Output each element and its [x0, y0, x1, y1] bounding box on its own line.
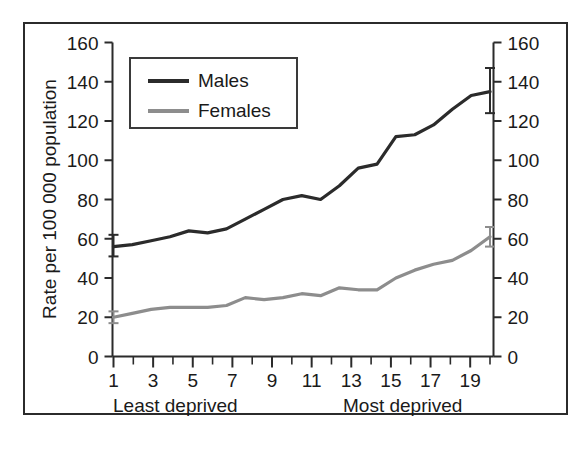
- y-axis-right: 020406080100120140160: [494, 33, 540, 368]
- x-axis-tick-label: 19: [460, 370, 481, 391]
- y-axis-left-tick-label: 100: [67, 150, 99, 171]
- x-axis-tick-label: 1: [108, 370, 119, 391]
- y-axis-left-tick-label: 160: [67, 33, 99, 54]
- x-axis-tick-label: 17: [420, 370, 441, 391]
- y-axis-right-tick-label: 100: [508, 150, 540, 171]
- legend: MalesFemales: [130, 58, 297, 128]
- x-axis-tick-label: 11: [302, 370, 322, 391]
- x-axis-tick-label: 15: [380, 370, 401, 391]
- x-axis-tick-label: 3: [148, 370, 159, 391]
- x-axis-ticks: 135791113151719: [108, 357, 490, 391]
- x-axis-tick-label: 13: [341, 370, 362, 391]
- y-axis-right-tick-label: 160: [508, 33, 540, 54]
- x-axis: 135791113151719: [108, 357, 493, 391]
- series-line-females: [114, 237, 491, 317]
- y-axis-right-tick-label: 60: [508, 229, 529, 250]
- y-axis-right-tick-label: 140: [508, 72, 540, 93]
- x-axis-tick-label: 5: [187, 370, 198, 391]
- y-axis-right-ticks: 020406080100120140160: [494, 33, 540, 368]
- y-axis-right-tick-label: 120: [508, 111, 540, 132]
- x-axis-note-most-deprived: Most deprived: [343, 395, 462, 416]
- y-axis-left-tick-label: 60: [77, 229, 98, 250]
- x-axis-tick-label: 7: [227, 370, 238, 391]
- y-axis-left-tick-label: 40: [77, 268, 98, 289]
- y-axis-title: Rate per 100 000 population: [39, 79, 60, 319]
- y-axis-right-tick-label: 20: [508, 307, 529, 328]
- x-axis-note-least-deprived: Least deprived: [113, 395, 238, 416]
- y-axis-right-tick-label: 40: [508, 268, 529, 289]
- y-axis-left: 020406080100120140160: [67, 33, 113, 368]
- y-axis-left-ticks: 020406080100120140160: [67, 33, 113, 368]
- y-axis-right-tick-label: 0: [508, 347, 519, 368]
- legend-label-males: Males: [198, 70, 249, 91]
- y-axis-left-tick-label: 80: [77, 190, 98, 211]
- y-axis-left-tick-label: 20: [77, 307, 98, 328]
- y-axis-right-tick-label: 80: [508, 190, 529, 211]
- legend-label-females: Females: [198, 100, 271, 121]
- figure-root: Rate per 100 000 population 020406080100…: [0, 0, 588, 457]
- y-axis-left-tick-label: 120: [67, 111, 99, 132]
- y-axis-left-tick-label: 140: [67, 72, 99, 93]
- deprivation-rate-line-chart: Rate per 100 000 population 020406080100…: [0, 0, 588, 457]
- y-axis-left-tick-label: 0: [88, 347, 99, 368]
- x-axis-tick-label: 9: [267, 370, 278, 391]
